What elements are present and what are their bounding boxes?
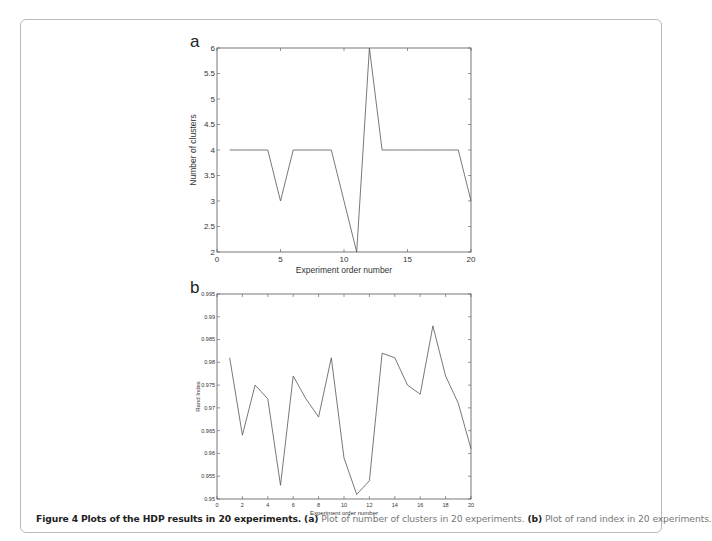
chart-a-y-tick-label: 5.5 bbox=[204, 69, 216, 78]
chart-a-y-tick-label: 3 bbox=[211, 197, 216, 206]
chart-a-y-tick-label: 4 bbox=[211, 146, 216, 155]
chart-b-x-tick-label: 2 bbox=[241, 502, 244, 508]
chart-b-y-tick-label: 0.995 bbox=[201, 291, 215, 297]
chart-a-y-tick-label: 2.5 bbox=[204, 222, 216, 231]
chart-b-plot-area bbox=[217, 294, 471, 499]
chart-b-x-tick-label: 0 bbox=[215, 502, 218, 508]
chart-b-x-tick-label: 4 bbox=[266, 502, 269, 508]
caption-figure-label: Figure 4 bbox=[36, 513, 78, 524]
caption-part-a-label: (a) bbox=[304, 513, 318, 524]
caption-part-b-label: (b) bbox=[527, 513, 542, 524]
chart-a-x-axis-label: Experiment order number bbox=[296, 265, 393, 275]
chart-b-y-tick-label: 0.95 bbox=[204, 496, 215, 502]
chart-a-x-tick-label: 5 bbox=[278, 255, 283, 264]
chart-a-y-tick-label: 6 bbox=[211, 44, 216, 53]
chart-b-y-tick-label: 0.99 bbox=[204, 314, 215, 320]
chart-b-y-tick-label: 0.98 bbox=[204, 359, 215, 365]
caption-figure-title: Plots of the HDP results in 20 experimen… bbox=[81, 513, 301, 524]
chart-b-x-tick-label: 14 bbox=[392, 502, 398, 508]
chart-a-x-tick-label: 20 bbox=[467, 255, 476, 264]
chart-b-y-tick-label: 0.955 bbox=[201, 473, 215, 479]
chart-a-y-tick-label: 4.5 bbox=[204, 120, 216, 129]
figure-caption: Figure 4 Plots of the HDP results in 20 … bbox=[36, 513, 712, 524]
chart-b-x-tick-label: 6 bbox=[292, 502, 295, 508]
caption-part-a-text: Plot of number of clusters in 20 experim… bbox=[321, 513, 524, 524]
chart-b-y-tick-label: 0.965 bbox=[201, 428, 215, 434]
chart-b-y-axis-label: Rand Index bbox=[195, 381, 201, 412]
chart-b-x-tick-label: 10 bbox=[341, 502, 347, 508]
chart-b-y-tick-label: 0.97 bbox=[204, 405, 215, 411]
chart-b-x-tick-label: 16 bbox=[417, 502, 423, 508]
chart-a-y-axis-label: Number of clusters bbox=[188, 114, 198, 185]
chart-a-x-tick-label: 15 bbox=[403, 255, 412, 264]
chart-b-x-tick-label: 20 bbox=[468, 502, 474, 508]
chart-b-x-tick-label: 12 bbox=[366, 502, 372, 508]
caption-part-b-text: Plot of rand index in 20 experiments. bbox=[545, 513, 712, 524]
chart-a-x-tick-label: 10 bbox=[340, 255, 349, 264]
chart-a-y-tick-label: 5 bbox=[211, 95, 216, 104]
chart-a-panel-label: a bbox=[190, 32, 200, 51]
chart-b-y-tick-label: 0.96 bbox=[204, 450, 215, 456]
chart-b-panel-label: b bbox=[190, 278, 199, 297]
chart-a-y-tick-label: 3.5 bbox=[204, 171, 216, 180]
chart-b-x-tick-label: 8 bbox=[317, 502, 320, 508]
chart-b-y-tick-label: 0.975 bbox=[201, 382, 215, 388]
chart-a-x-tick-label: 0 bbox=[215, 255, 220, 264]
chart-a-y-tick-label: 2 bbox=[211, 248, 216, 257]
chart-b-y-tick-label: 0.985 bbox=[201, 336, 215, 342]
chart-b-x-tick-label: 18 bbox=[443, 502, 449, 508]
